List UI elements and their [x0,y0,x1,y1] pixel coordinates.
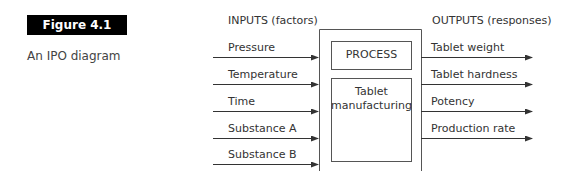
input-label: Substance B [228,148,297,161]
input-label: Temperature [228,68,298,81]
output-label: Potency [431,95,475,108]
output-label: Tablet weight [431,41,504,54]
input-label: Pressure [228,41,275,54]
inputs-header: INPUTS (factors) [228,14,318,27]
process-name-line2: manufacturing [331,99,412,112]
process-label: PROCESS [331,48,412,61]
output-label: Production rate [431,122,515,135]
input-label: Time [228,95,255,108]
input-label: Substance A [228,122,297,135]
process-name-line1: Tablet [331,85,412,98]
outputs-header: OUTPUTS (responses) [432,14,552,27]
output-label: Tablet hardness [431,68,517,81]
